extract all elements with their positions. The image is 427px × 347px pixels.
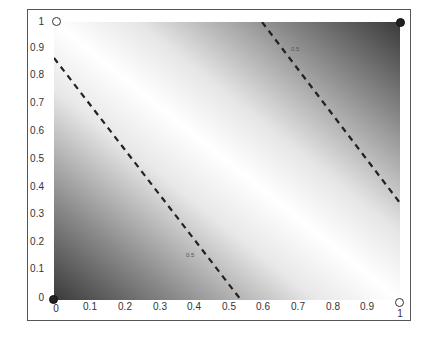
y-tick: 0.3: [22, 208, 44, 219]
x-tick: 0.2: [113, 301, 137, 312]
y-tick: 0: [22, 292, 44, 303]
x-tick: 0.5: [217, 301, 241, 312]
x-tick: 1: [388, 308, 412, 319]
y-tick: 0.4: [22, 181, 44, 192]
data-point-open: [395, 298, 404, 307]
x-tick: 0.4: [182, 301, 206, 312]
x-tick: 0.3: [148, 301, 172, 312]
x-tick: 0.7: [286, 301, 310, 312]
heatmap-plot-area: [54, 22, 400, 300]
heatmap-surface: [54, 22, 400, 300]
data-point-open: [52, 17, 61, 26]
x-tick: 0.9: [355, 301, 379, 312]
y-tick: 0.8: [22, 69, 44, 80]
x-tick: 0.6: [251, 301, 275, 312]
data-point-filled: [49, 295, 58, 304]
y-tick: 0.6: [22, 125, 44, 136]
y-tick: 0.1: [22, 263, 44, 274]
x-tick: 0.1: [78, 301, 102, 312]
contour-label-left: 0.5: [186, 252, 194, 258]
y-tick: 0.7: [22, 97, 44, 108]
y-tick: 0.5: [22, 153, 44, 164]
contour-label-right: 0.5: [291, 46, 299, 52]
y-tick: 1: [22, 16, 44, 27]
y-tick: 0.2: [22, 236, 44, 247]
x-tick: 0: [44, 303, 68, 314]
data-point-filled: [396, 18, 405, 27]
x-tick: 0.8: [321, 301, 345, 312]
y-tick: 0.9: [22, 42, 44, 53]
